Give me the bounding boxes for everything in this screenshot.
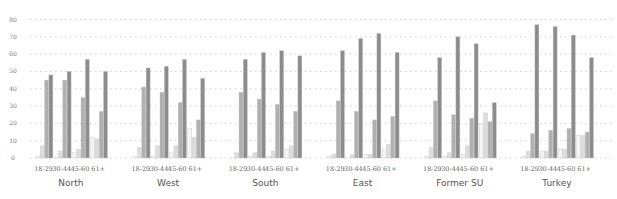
age-group-label: 30-44 (247, 165, 266, 173)
age-group-label: 61+ (577, 165, 591, 173)
bar (395, 52, 399, 158)
bar (85, 59, 89, 158)
region-label: North (58, 178, 83, 188)
age-group-label: 18-29 (229, 165, 248, 173)
region-label: South (252, 178, 278, 188)
bar (364, 155, 368, 158)
bars (36, 25, 594, 158)
bar (235, 153, 239, 158)
bar (104, 71, 108, 158)
bar (36, 156, 40, 158)
bar (160, 92, 164, 158)
age-group-label: 61+ (383, 165, 397, 173)
age-group-label: 30-44 (52, 165, 71, 173)
bar (368, 155, 372, 158)
bar (183, 59, 187, 158)
bar (174, 146, 178, 158)
bar (563, 149, 567, 158)
y-tick-label: 50 (9, 67, 17, 74)
bar (243, 59, 247, 158)
y-tick-label: 10 (9, 137, 17, 144)
bar (196, 120, 200, 158)
bar (341, 51, 345, 158)
region-label: West (157, 178, 180, 188)
bar (577, 135, 581, 158)
bar (443, 156, 447, 158)
y-tick-label: 60 (9, 50, 17, 57)
bar (456, 37, 460, 158)
bar (77, 149, 81, 158)
bar (350, 155, 354, 158)
age-group-label: 45-60 (459, 165, 478, 173)
bar (328, 156, 332, 158)
bar (484, 113, 488, 158)
bar (142, 87, 146, 158)
bar (262, 52, 266, 158)
grouped-bar-chart: 01020304050607080 18-2930-4445-6061+Nort… (0, 0, 617, 199)
bar (249, 156, 253, 158)
age-group-label: 61+ (480, 165, 494, 173)
bar (488, 122, 492, 158)
y-tick-label: 20 (9, 119, 17, 126)
bar (373, 120, 377, 158)
bar (553, 26, 557, 158)
bar (387, 144, 391, 158)
bar (558, 149, 562, 158)
bar (192, 137, 196, 158)
bar (433, 101, 437, 158)
bar (49, 75, 53, 158)
bar (63, 80, 67, 158)
bar (280, 51, 284, 158)
bar (549, 130, 553, 158)
bar (59, 151, 63, 158)
age-group-label: 18-29 (423, 165, 442, 173)
bar (382, 149, 386, 158)
bar (289, 146, 293, 158)
bar (99, 111, 103, 158)
age-group-label: 30-44 (344, 165, 363, 173)
bar (275, 104, 279, 158)
bar (531, 134, 535, 158)
bar (239, 92, 243, 158)
bar (156, 146, 160, 158)
age-group-label: 30-44 (441, 165, 460, 173)
bar (470, 118, 474, 158)
y-tick-label: 0 (11, 154, 15, 161)
bar (479, 123, 483, 158)
age-group-label: 45-60 (265, 165, 284, 173)
age-group-label: 18-29 (34, 165, 53, 173)
bar (257, 99, 261, 158)
bar (72, 153, 76, 158)
bar (545, 151, 549, 158)
y-tick-label: 30 (9, 102, 17, 109)
bar (354, 111, 358, 158)
bar (526, 151, 530, 158)
bar (67, 71, 71, 158)
bar (452, 115, 456, 158)
y-tick-label: 40 (9, 85, 17, 92)
age-group-label: 18-29 (131, 165, 150, 173)
bar (146, 68, 150, 158)
bar (188, 129, 192, 158)
age-group-label: 45-60 (168, 165, 187, 173)
bar (298, 56, 302, 158)
age-group-label: 45-60 (557, 165, 576, 173)
gridlines (30, 20, 612, 159)
bar (294, 111, 298, 158)
y-tick-label: 80 (9, 16, 17, 23)
bar (332, 155, 336, 158)
age-group-label: 18-29 (520, 165, 539, 173)
bar (45, 80, 49, 158)
bar (581, 135, 585, 158)
bar (474, 44, 478, 158)
age-group-label: 30-44 (150, 165, 169, 173)
age-group-label: 45-60 (362, 165, 381, 173)
region-label: Turkey (541, 178, 572, 188)
bar (267, 156, 271, 158)
y-tick-label: 70 (9, 33, 17, 40)
bar (429, 148, 433, 158)
bar (253, 153, 257, 158)
bar (151, 156, 155, 158)
bar (377, 33, 381, 158)
bar (201, 78, 205, 158)
